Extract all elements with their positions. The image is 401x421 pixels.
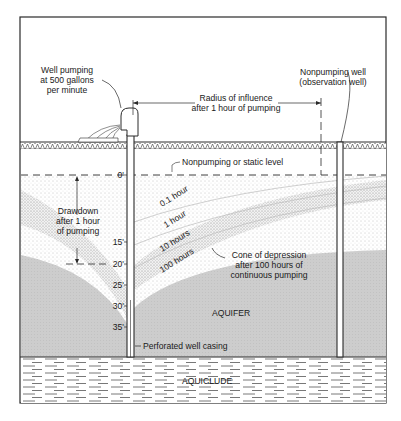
cone-label-2: after 100 hours of: [235, 260, 303, 270]
drawdown-label-1: Drawdown: [58, 206, 99, 216]
casing-label: Perforated well casing: [143, 341, 228, 351]
depth-tick-15: 15': [113, 237, 125, 247]
observation-well: [337, 142, 343, 357]
observation-label-2: (observation well): [299, 77, 366, 87]
depth-tick-30: 30': [113, 301, 125, 311]
pumping-well-label-2: at 500 gallons: [40, 75, 94, 85]
depth-tick-35: 35': [113, 322, 125, 332]
depth-tick-20: 20': [113, 259, 125, 269]
pumping-well-label-3: per minute: [47, 85, 88, 95]
cone-label-1: Cone of depression: [232, 250, 307, 260]
pumping-well-label-1: Well pumping: [41, 65, 93, 75]
aquifer-label: AQUIFER: [212, 308, 250, 318]
radius-label-2: after 1 hour of pumping: [192, 103, 281, 113]
static-level-label: Nonpumping or static level: [182, 157, 283, 167]
depth-tick-25: 25': [113, 280, 125, 290]
radius-label-1: Radius of influence: [199, 93, 272, 103]
ground-surface: [21, 143, 386, 149]
cone-label-3: continuous pumping: [231, 270, 308, 280]
groundwater-diagram: Well pumping at 500 gallons per minute R…: [0, 0, 401, 421]
drawdown-label-2: after 1 hour: [56, 216, 100, 226]
drawdown-label-3: of pumping: [57, 226, 100, 236]
depth-tick-0: 0': [118, 170, 125, 180]
observation-label-1: Nonpumping well: [300, 67, 366, 77]
aquiclude-label: AQUICLUDE: [182, 376, 232, 386]
